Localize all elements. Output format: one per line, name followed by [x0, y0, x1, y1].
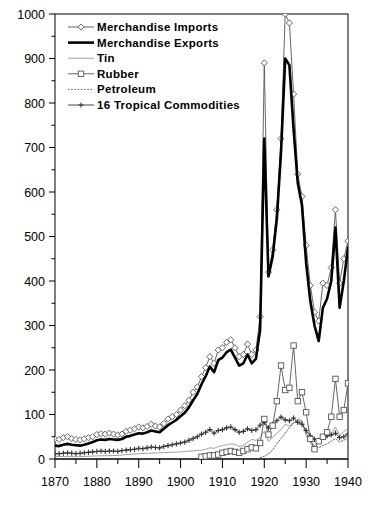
y-tick-label: 800 [24, 97, 45, 111]
legend-label: Merchandise Exports [97, 37, 219, 49]
marker-diamond [332, 207, 338, 213]
legend-item-rubber[interactable]: Rubber [68, 68, 139, 80]
marker-square [312, 447, 317, 452]
marker-plus [345, 431, 350, 436]
series-merchandise-exports [55, 59, 348, 447]
marker-square [270, 423, 275, 428]
marker-plus [165, 443, 170, 448]
marker-plus [283, 417, 288, 422]
legend-item-petroleum[interactable]: Petroleum [68, 83, 156, 95]
legend-item-imports[interactable]: Merchandise Imports [68, 21, 218, 33]
y-tick-label: 0 [38, 453, 45, 467]
marker-plus [237, 430, 242, 435]
marker-square [308, 436, 313, 441]
marker-plus [78, 102, 83, 107]
y-tick-label: 500 [24, 230, 45, 244]
x-tick-label: 1940 [334, 475, 362, 489]
series-rubber [199, 343, 351, 460]
marker-plus [216, 428, 221, 433]
legend-item-exports[interactable]: Merchandise Exports [68, 37, 219, 49]
marker-diamond [261, 60, 267, 66]
x-tick-label: 1900 [167, 475, 195, 489]
marker-diamond [244, 341, 250, 347]
y-axis-ticks [49, 14, 55, 459]
marker-square [278, 363, 283, 368]
marker-diamond [286, 20, 292, 26]
y-tick-label: 300 [24, 319, 45, 333]
marker-square [345, 381, 350, 386]
marker-diamond [345, 238, 351, 244]
line-chart: 01002003004005006007008009001000 1870188… [0, 0, 368, 508]
marker-square [287, 385, 292, 390]
marker-plus [144, 445, 149, 450]
marker-plus [132, 447, 137, 452]
marker-square [257, 440, 262, 445]
x-tick-label: 1890 [125, 475, 153, 489]
x-tick-label: 1930 [292, 475, 320, 489]
y-axis-tick-labels: 01002003004005006007008009001000 [17, 8, 45, 467]
y-tick-label: 400 [24, 275, 45, 289]
series-line [55, 59, 348, 447]
marker-square [333, 376, 338, 381]
marker-square [253, 446, 258, 451]
marker-square [337, 414, 342, 419]
marker-plus [232, 427, 237, 432]
marker-diamond [207, 354, 213, 360]
x-tick-label: 1880 [83, 475, 111, 489]
marker-plus [140, 446, 145, 451]
marker-square [266, 432, 271, 437]
marker-diamond [232, 345, 238, 351]
y-tick-label: 600 [24, 186, 45, 200]
marker-square [262, 416, 267, 421]
marker-diamond [282, 11, 288, 17]
marker-plus [287, 418, 292, 423]
x-axis-ticks [55, 459, 348, 468]
x-tick-label: 1920 [250, 475, 278, 489]
marker-square [274, 398, 279, 403]
chart-container: 01002003004005006007008009001000 1870188… [0, 0, 368, 508]
marker-plus [241, 429, 246, 434]
legend-label: 16 Tropical Commodities [97, 99, 240, 111]
y-tick-label: 900 [24, 52, 45, 66]
marker-square [299, 390, 304, 395]
marker-plus [228, 424, 233, 429]
y-tick-label: 1000 [17, 8, 45, 22]
chart-legend: Merchandise ImportsMerchandise ExportsTi… [68, 21, 240, 111]
marker-diamond [78, 24, 84, 30]
legend-label: Merchandise Imports [97, 21, 218, 33]
marker-square [324, 430, 329, 435]
legend-label: Petroleum [97, 83, 156, 95]
legend-item-tin[interactable]: Tin [68, 52, 115, 64]
marker-plus [178, 440, 183, 445]
x-tick-label: 1870 [41, 475, 69, 489]
marker-plus [174, 441, 179, 446]
y-tick-label: 700 [24, 141, 45, 155]
marker-square [291, 343, 296, 348]
marker-square [329, 414, 334, 419]
y-tick-label: 100 [24, 408, 45, 422]
marker-square [341, 407, 346, 412]
marker-square [303, 410, 308, 415]
legend-label: Tin [97, 52, 115, 64]
marker-plus [341, 434, 346, 439]
legend-label: Rubber [97, 68, 139, 80]
legend-item-tropical[interactable]: 16 Tropical Commodities [68, 99, 240, 111]
x-tick-label: 1910 [209, 475, 237, 489]
marker-plus [170, 442, 175, 447]
marker-square [295, 398, 300, 403]
marker-plus [115, 449, 120, 454]
y-tick-label: 200 [24, 364, 45, 378]
x-axis-tick-labels: 18701880189019001910192019301940 [41, 475, 362, 489]
marker-square [78, 71, 83, 76]
